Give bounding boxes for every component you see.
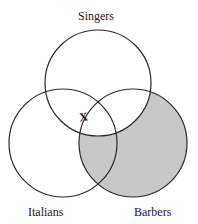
venn-diagram: X: [0, 0, 198, 224]
label-italians: Italians: [28, 206, 63, 218]
label-singers: Singers: [78, 10, 114, 22]
label-barbers: Barbers: [134, 206, 171, 218]
x-mark: X: [78, 109, 89, 124]
